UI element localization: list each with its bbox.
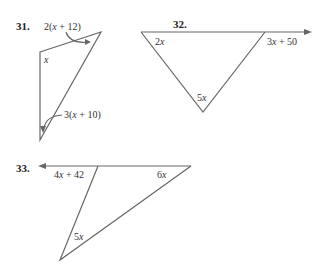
problem-number: 32. xyxy=(173,18,187,30)
angle-label-top-right: 6x xyxy=(157,169,167,180)
angle-label-bottom: 5x xyxy=(197,92,207,103)
angle-label-top-left: 2x xyxy=(155,36,165,47)
problem-number: 31. xyxy=(16,20,30,32)
problem-31: 31. 2(x + 12) x 3(x + 10) xyxy=(16,20,101,140)
angle-label-exterior-top: 2(x + 12) xyxy=(44,21,81,33)
angle-label-interior: x xyxy=(43,54,49,65)
angle-label-exterior-bottom: 3(x + 10) xyxy=(64,109,101,121)
angle-label-exterior: 3x + 50 xyxy=(267,36,297,47)
angle-label-exterior: 4x + 42 xyxy=(54,169,84,180)
arrowhead-icon xyxy=(85,39,91,45)
arrowhead-icon xyxy=(304,29,312,35)
angle-arrow-bottom xyxy=(44,115,62,128)
problem-number: 33. xyxy=(16,162,30,174)
problem-32: 32. 2x 3x + 50 5x xyxy=(141,18,312,112)
triangle-33 xyxy=(60,166,191,260)
angle-label-bottom: 5x xyxy=(74,231,84,242)
arrowhead-icon xyxy=(38,163,46,169)
triangle-31 xyxy=(40,32,101,140)
problem-33: 33. 4x + 42 6x 5x xyxy=(16,162,191,260)
figure-canvas: 31. 2(x + 12) x 3(x + 10) 32. 2x 3x + 50… xyxy=(0,0,321,264)
